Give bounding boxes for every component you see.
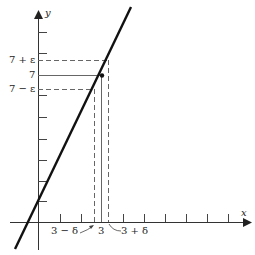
point-3-7 xyxy=(100,73,104,77)
label-3: 3 xyxy=(98,226,104,236)
x-ticks xyxy=(61,214,229,222)
label-7-minus-epsilon: 7 − ε xyxy=(9,84,35,94)
function-line xyxy=(15,7,131,249)
x-axis-label: x xyxy=(241,208,247,218)
epsilon-delta-diagram: y x 7 + ε 7 7 − ε 3 − δ 3 3 + δ xyxy=(0,0,255,255)
graph-canvas xyxy=(0,0,255,255)
y-ticks xyxy=(38,33,47,202)
label-7-plus-epsilon: 7 + ε xyxy=(9,55,35,65)
x-axis-arrow-icon xyxy=(243,218,252,227)
pointer-3-plus-delta xyxy=(109,224,121,231)
y-axis-arrow-icon xyxy=(34,10,43,19)
label-3-plus-delta: 3 + δ xyxy=(121,226,148,236)
y-axis-label: y xyxy=(45,8,51,18)
label-7: 7 xyxy=(29,70,35,80)
label-3-minus-delta: 3 − δ xyxy=(51,226,78,236)
